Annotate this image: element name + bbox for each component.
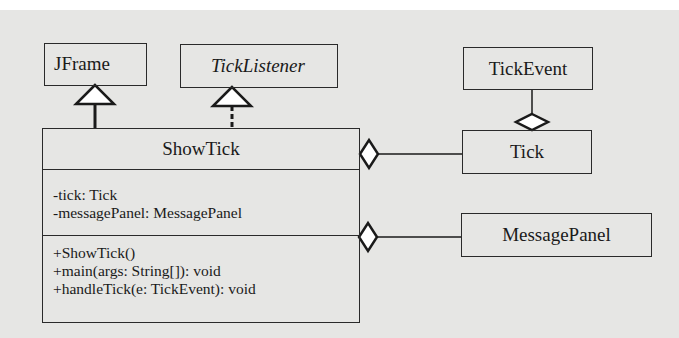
method-main: +main(args: String[]): void [53, 262, 359, 280]
method-constructor: +ShowTick() [53, 244, 359, 262]
class-tick[interactable]: Tick [462, 130, 592, 174]
class-tickevent[interactable]: TickEvent [463, 47, 593, 90]
realization-arrow-icon [213, 87, 251, 106]
methods-section: +ShowTick() +main(args: String[]): void … [43, 236, 359, 298]
class-name: TickEvent [489, 58, 567, 80]
class-name: TickListener [211, 55, 305, 77]
aggregation-diamond-icon [360, 140, 378, 168]
method-handletick: +handleTick(e: TickEvent): void [53, 280, 359, 298]
class-name-section: ShowTick [43, 129, 359, 170]
class-name: ShowTick [162, 138, 239, 160]
class-name: Tick [510, 141, 544, 163]
aggregation-diamond-icon [359, 223, 377, 251]
class-name: JFrame [54, 53, 110, 75]
attribute-tick: -tick: Tick [53, 186, 359, 204]
class-showtick[interactable]: ShowTick -tick: Tick -messagePanel: Mess… [42, 128, 360, 323]
aggregation-diamond-icon [516, 114, 548, 130]
generalization-arrow-icon [76, 85, 114, 104]
class-jframe[interactable]: JFrame [44, 43, 147, 86]
attribute-messagepanel: -messagePanel: MessagePanel [53, 204, 359, 222]
attributes-section: -tick: Tick -messagePanel: MessagePanel [43, 170, 359, 236]
class-ticklistener[interactable]: TickListener [180, 44, 338, 88]
class-name: MessagePanel [502, 224, 611, 246]
class-messagepanel[interactable]: MessagePanel [461, 213, 652, 257]
